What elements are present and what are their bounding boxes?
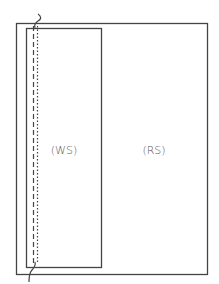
rs-label: (RS) [142,144,165,157]
ws-label: (WS) [51,144,77,157]
break-mark-top-icon [35,14,41,28]
break-mark-bottom-icon [29,262,35,282]
outer-region-rs [17,24,208,275]
diagram-canvas [0,0,219,284]
